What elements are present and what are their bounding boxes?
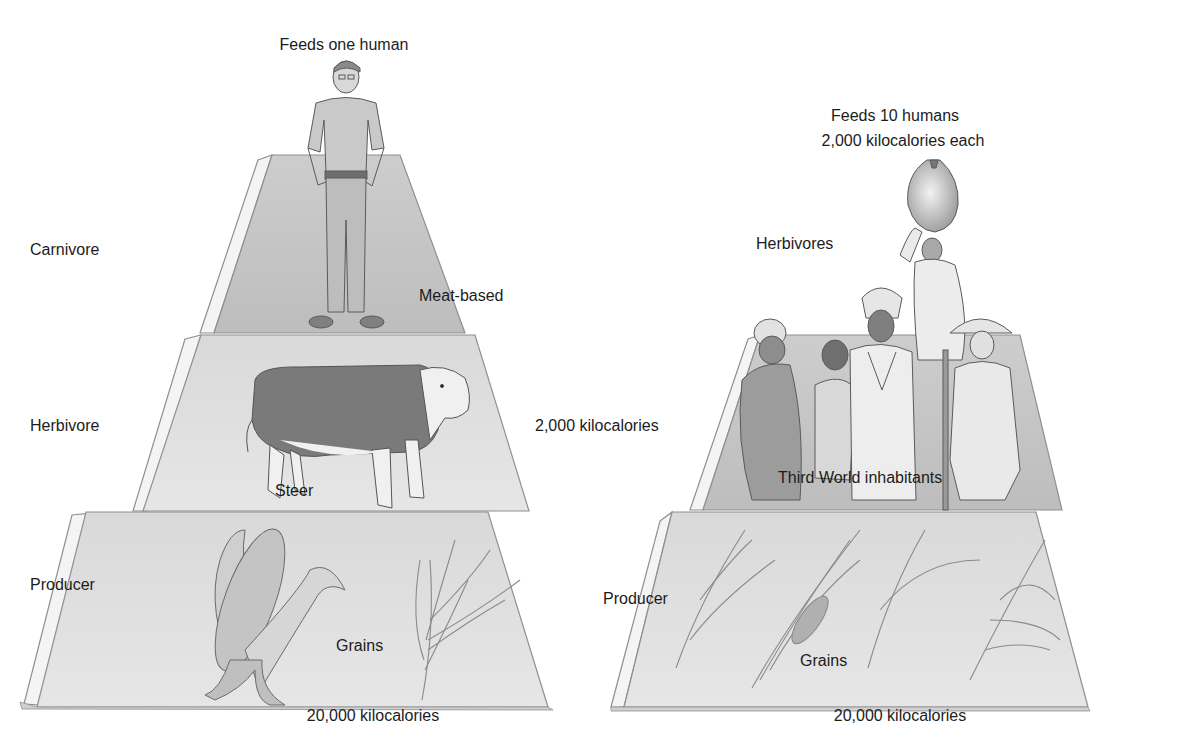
meat-based-annotation: Meat-based [419, 287, 504, 305]
right-pyramid [611, 160, 1090, 711]
middle-energy-label: 2,000 kilocalories [535, 417, 659, 435]
left-tier-label-producer: Producer [30, 576, 95, 594]
right-tier-label-producer: Producer [603, 590, 668, 608]
left-pyramid [20, 61, 553, 710]
inhabitants-annotation: Third World inhabitants [778, 469, 942, 487]
right-top-label-line1: Feeds 10 humans [831, 107, 959, 125]
left-bottom-energy-label: 20,000 kilocalories [307, 707, 440, 725]
people-illustration [740, 160, 1020, 510]
food-pyramid-figure: Feeds one human Carnivore Meat-based Her… [0, 0, 1187, 747]
left-grains-annotation: Grains [336, 637, 383, 655]
right-top-label-line2: 2,000 kilocalories each [822, 132, 985, 150]
left-tier-label-carnivore: Carnivore [30, 241, 99, 259]
pyramid-drawings [0, 0, 1187, 747]
steer-annotation: Steer [275, 482, 313, 500]
left-top-label: Feeds one human [280, 36, 409, 54]
right-bottom-energy-label: 20,000 kilocalories [834, 707, 967, 725]
right-tier-label-herbivores: Herbivores [756, 235, 833, 253]
left-tier-label-herbivore: Herbivore [30, 417, 99, 435]
right-grains-annotation: Grains [800, 652, 847, 670]
